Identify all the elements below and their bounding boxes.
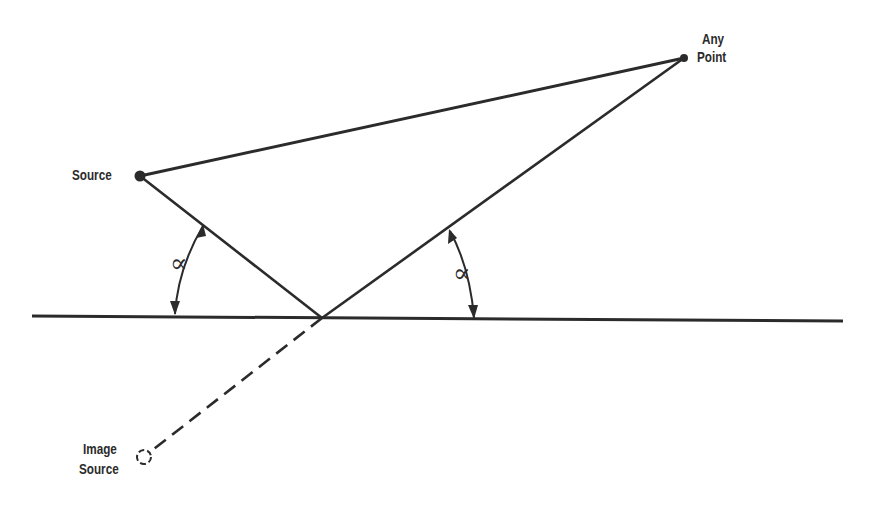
left-angle-alpha-label: ∝ [170,250,188,276]
image-source-label-line1: Image [83,440,117,458]
source-label: Source [72,166,112,184]
reflecting-surface-line [32,316,843,321]
any-point-label-line2: Point [697,48,726,66]
source-point-icon [135,171,146,182]
incident-ray-line [140,176,322,318]
image-source-point-icon [137,450,151,464]
diagram-canvas [0,0,870,514]
any-point-icon [680,54,688,62]
any-point-label-line1: Any [702,30,724,48]
right-angle-alpha-label: ∝ [453,260,471,286]
image-path-dashed-line [150,318,322,452]
image-source-label-line2: Source [79,460,119,478]
reflection-diagram: Source Any Point Image Source ∝ ∝ [0,0,870,514]
